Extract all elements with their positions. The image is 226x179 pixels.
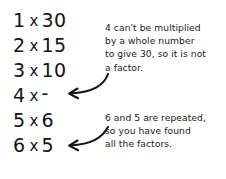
- callout-line: to give 30, so it is not: [105, 47, 206, 60]
- factor-first: 2: [13, 33, 25, 58]
- curved-arrow-left-icon: [64, 72, 110, 104]
- factor-second: 6: [42, 108, 54, 133]
- callout-line: by a whole number: [105, 34, 206, 47]
- multiply-operator: x: [25, 9, 41, 34]
- callout-line: a factor.: [105, 61, 206, 74]
- callout-line: 6 and 5 are repeated,: [105, 111, 206, 124]
- multiply-operator: x: [25, 109, 41, 134]
- curved-arrow-left-icon: [64, 124, 110, 156]
- factor-first: 1: [13, 8, 25, 33]
- callout-line: 4 can't be multiplied: [105, 21, 206, 34]
- factor-second: 30: [42, 8, 67, 33]
- callout-line: all the factors.: [105, 137, 206, 150]
- callout-line: so you have found: [105, 124, 206, 137]
- callout-factor-note: 4 can't be multiplied by a whole number …: [105, 21, 206, 74]
- factor-second: 5: [42, 133, 54, 158]
- factor-second: 15: [42, 33, 67, 58]
- multiply-operator: x: [25, 84, 41, 109]
- worksheet-canvas: 1x30 2x15 3x10 4x- 5x6 6x5 4 can't be mu…: [0, 0, 226, 179]
- multiply-operator: x: [25, 34, 41, 59]
- factor-second-blank: -: [42, 81, 49, 106]
- factor-row: 1x30: [13, 8, 93, 33]
- multiply-operator: x: [25, 134, 41, 159]
- factor-first: 4: [13, 83, 25, 108]
- factor-row: 2x15: [13, 33, 93, 58]
- multiply-operator: x: [25, 59, 41, 84]
- factor-first: 3: [13, 58, 25, 83]
- factor-first: 6: [13, 133, 25, 158]
- factor-second: 10: [42, 58, 67, 83]
- factor-first: 5: [13, 108, 25, 133]
- callout-repeat-note: 6 and 5 are repeated, so you have found …: [105, 111, 206, 151]
